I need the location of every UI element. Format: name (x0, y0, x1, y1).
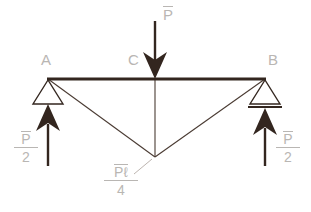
label-node-a: A (41, 52, 51, 67)
reaction-arrow-right (253, 108, 277, 166)
label-node-b: B (268, 52, 278, 67)
applied-load-arrow (143, 21, 167, 79)
bending-moment-triangle (48, 79, 265, 157)
label-node-c: C (128, 52, 139, 67)
support-roller-right (248, 80, 282, 107)
peak-moment-numerator: Pℓ (104, 164, 138, 181)
label-reaction-left: P 2 (14, 131, 38, 164)
label-reaction-right: P 2 (276, 131, 300, 164)
support-right-triangle (250, 80, 280, 104)
moment-line-right (155, 79, 265, 157)
reaction-right-denominator: 2 (276, 148, 300, 164)
support-pin-left (33, 80, 63, 104)
peak-moment-denominator: 4 (104, 181, 138, 197)
reaction-right-numerator: P (276, 131, 300, 148)
diagram-canvas (0, 0, 311, 212)
applied-load-symbol: P (163, 6, 173, 22)
reaction-arrow-left (36, 104, 60, 166)
support-left-triangle (33, 80, 63, 104)
reaction-left-numerator: P (14, 131, 38, 148)
reaction-right-symbol: P (283, 131, 292, 146)
moment-line-left (48, 79, 155, 157)
peak-moment-symbol: Pℓ (114, 164, 128, 179)
beam-diagram: A C B P P 2 P 2 Pℓ 4 (0, 0, 311, 212)
reaction-left-denominator: 2 (14, 148, 38, 164)
label-peak-moment: Pℓ 4 (104, 164, 138, 197)
label-applied-load: P (163, 6, 173, 22)
reaction-left-symbol: P (21, 131, 30, 146)
